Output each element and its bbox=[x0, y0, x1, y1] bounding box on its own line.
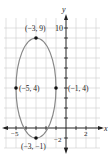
coordinate-plane: y x 10 −2 −5 2 (−3, 9) (−5, 4) (−1, 4) (… bbox=[0, 0, 111, 159]
tick-label-y-10: 10 bbox=[55, 24, 63, 33]
point-label-left: (−5, 4) bbox=[19, 84, 40, 93]
point-label-bottom: (−3, −1) bbox=[21, 142, 46, 151]
point-left bbox=[14, 86, 18, 90]
tick-label-x-neg5: −5 bbox=[11, 130, 19, 138]
point-label-top: (−3, 9) bbox=[25, 24, 46, 33]
x-axis-label: x bbox=[103, 124, 108, 133]
point-label-right: (−1, 4) bbox=[68, 84, 89, 93]
y-axis-label: y bbox=[61, 5, 66, 14]
point-right bbox=[54, 86, 58, 90]
tick-label-y-neg2: −2 bbox=[54, 136, 62, 144]
x-axis-arrow-left bbox=[2, 126, 8, 130]
y-axis-arrow-up bbox=[64, 14, 68, 20]
tick-label-x-2: 2 bbox=[84, 130, 88, 138]
point-bottom bbox=[34, 136, 38, 140]
point-top bbox=[34, 36, 38, 40]
y-axis-arrow-down bbox=[64, 148, 68, 154]
